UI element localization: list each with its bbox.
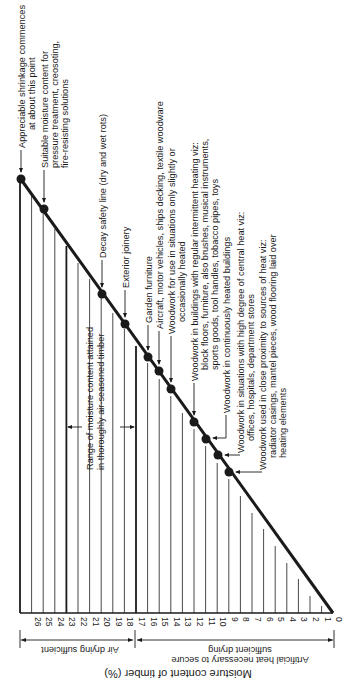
svg-text:offices, hospitals, department: offices, hospitals, department stores — [246, 294, 256, 441]
dot-occasionally-heated — [167, 385, 176, 394]
annotation-pressure-treatment: Suitable moisture content for pressure t… — [40, 41, 70, 168]
svg-text:in thoroughly air-seasoned tim: in thoroughly air-seasoned timber — [96, 334, 106, 470]
svg-text:10: 10 — [218, 617, 228, 627]
annotation-exterior-joinery: Exterior joinery — [121, 226, 131, 288]
dot-continuously-heated — [202, 435, 211, 444]
svg-text:Garden furniture: Garden furniture — [144, 256, 154, 323]
svg-text:1: 1 — [323, 617, 333, 622]
dot-pressure-treatment — [40, 205, 49, 214]
svg-text:3: 3 — [299, 617, 309, 622]
annotation-occasionally-heated: Woodwork for use in situations only slig… — [167, 148, 187, 334]
svg-text:block floors, furniture, also: block floors, furniture, also brushes, m… — [200, 139, 210, 370]
svg-text:heating elements: heating elements — [278, 388, 288, 458]
svg-text:Range of moisture content atta: Range of moisture content attained — [85, 327, 95, 470]
svg-text:pressure treatment, creosoting: pressure treatment, creosoting, — [50, 41, 60, 168]
tick-labels: 26 25 24 23 22 21 20 19 18 17 16 15 14 1… — [33, 617, 345, 627]
svg-text:at about this point: at about this point — [27, 57, 37, 130]
annotation-intermittent-heating: Woodwork in buildings with regular inter… — [190, 139, 220, 381]
svg-text:Woodwork in buildings with reg: Woodwork in buildings with regular inter… — [190, 142, 200, 381]
svg-text:21: 21 — [91, 617, 101, 627]
dot-close-proximity — [225, 468, 234, 477]
svg-text:20: 20 — [102, 617, 112, 627]
svg-text:Exterior joinery: Exterior joinery — [121, 226, 131, 288]
svg-text:Aircraft, motor vehicles, ship: Aircraft, motor vehicles, ships decking,… — [155, 101, 165, 329]
svg-text:7: 7 — [253, 617, 263, 622]
zone-label-artificial-line2: sufficient drying — [208, 645, 272, 655]
svg-text:fire-resisting solutions: fire-resisting solutions — [60, 79, 70, 168]
annotation-labels: Appreciable shrinkage commences at about… — [17, 5, 288, 470]
svg-text:Decay safety line (dry and wet: Decay safety line (dry and wet rots) — [98, 114, 108, 258]
svg-text:6: 6 — [265, 617, 275, 622]
svg-text:8: 8 — [241, 617, 251, 622]
moisture-content-diagram: 26 25 24 23 22 21 20 19 18 17 16 15 14 1… — [0, 0, 358, 681]
zone-label-air-drying: Air drying sufficient — [41, 645, 119, 655]
svg-text:23: 23 — [67, 617, 77, 627]
zone-label-artificial-line1: Artificial heat necessary to secure — [171, 655, 308, 665]
svg-text:19: 19 — [114, 617, 124, 627]
axis-title: Moisture content of timber (%) — [104, 668, 251, 680]
dot-shrinkage — [17, 175, 26, 184]
dot-aircraft — [155, 367, 164, 376]
annotation-garden-furniture: Garden furniture — [144, 256, 154, 323]
svg-text:radiator casings, mantel piece: radiator casings, mantel pieces, wood fl… — [268, 234, 278, 458]
svg-text:0: 0 — [334, 617, 344, 622]
annotation-shrinkage: Appreciable shrinkage commences at about… — [17, 5, 37, 148]
svg-text:15: 15 — [160, 617, 170, 627]
svg-text:11: 11 — [207, 617, 217, 626]
svg-text:25: 25 — [44, 617, 54, 627]
svg-text:22: 22 — [79, 617, 89, 627]
svg-text:Woodwork in situations with hi: Woodwork in situations with high degree … — [236, 212, 246, 453]
dot-decay-safety — [98, 290, 107, 299]
svg-text:Woodwork in continuously heate: Woodwork in continuously heated building… — [222, 237, 232, 413]
svg-text:26: 26 — [33, 617, 43, 627]
annotation-aircraft: Aircraft, motor vehicles, ships decking,… — [155, 101, 165, 329]
svg-text:18: 18 — [125, 617, 135, 627]
annotation-close-proximity: Woodwork used in close proximity to sour… — [258, 234, 288, 470]
svg-text:Suitable moisture content for: Suitable moisture content for — [40, 51, 50, 168]
svg-text:4: 4 — [288, 617, 298, 622]
range-label: Range of moisture content attained in th… — [85, 327, 106, 470]
svg-text:12: 12 — [195, 617, 205, 627]
dot-garden-furniture — [144, 353, 153, 362]
dot-central-heat — [214, 451, 223, 460]
annotation-central-heat: Woodwork in situations with high degree … — [236, 212, 256, 453]
svg-text:Woodwork used in close proximi: Woodwork used in close proximity to sour… — [258, 239, 268, 470]
svg-text:9: 9 — [230, 617, 240, 622]
svg-text:5: 5 — [276, 617, 286, 622]
svg-text:sports goods, tool handles, to: sports goods, tool handles, tobacco pipe… — [210, 179, 220, 370]
annotation-decay-safety: Decay safety line (dry and wet rots) — [98, 114, 108, 258]
annotation-continuously-heated: Woodwork in continuously heated building… — [222, 237, 232, 413]
svg-text:14: 14 — [172, 617, 182, 627]
svg-text:2: 2 — [311, 617, 321, 622]
svg-text:24: 24 — [56, 617, 66, 627]
dot-exterior-joinery — [121, 320, 130, 329]
svg-text:13: 13 — [183, 617, 193, 627]
dot-intermittent-heating — [190, 418, 199, 427]
svg-text:16: 16 — [149, 617, 159, 627]
svg-text:Appreciable shrinkage commence: Appreciable shrinkage commences — [17, 5, 27, 148]
svg-text:Woodwork for use in situations: Woodwork for use in situations only slig… — [167, 148, 177, 334]
svg-text:occasionally heated: occasionally heated — [177, 241, 187, 322]
svg-text:17: 17 — [137, 617, 147, 627]
